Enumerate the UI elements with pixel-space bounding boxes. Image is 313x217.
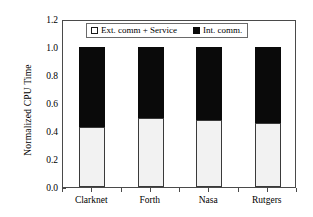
bar-segment-int-comm (196, 47, 222, 120)
filled-square-swatch-icon (193, 27, 200, 34)
chart-legend: Ext. comm + Service Int. comm. (86, 23, 248, 38)
legend-label-int-comm: Int. comm. (203, 26, 242, 35)
bar-rutgers (255, 47, 281, 187)
y-tick-label: 0.8 (24, 71, 58, 81)
y-tick-label: 0.4 (24, 127, 58, 137)
x-tick-mark (150, 188, 151, 192)
x-tick-mark (121, 188, 122, 192)
bar-clarknet (79, 47, 105, 187)
y-tick-label: 0.0 (24, 183, 58, 193)
bar-nasa (196, 47, 222, 187)
x-tick-label-rutgers: Rutgers (252, 195, 282, 205)
y-tick-label: 0.6 (24, 99, 58, 109)
x-tick-mark (296, 188, 297, 192)
x-tick-mark (238, 188, 239, 192)
bar-segment-ext-comm-service (196, 120, 222, 187)
bar-segment-ext-comm-service (255, 123, 281, 187)
y-tick-label: 1.2 (24, 15, 58, 25)
bar-forth (138, 47, 164, 187)
legend-item-ext-comm-service: Ext. comm + Service (91, 26, 177, 35)
y-tick-label: 0.2 (24, 155, 58, 165)
bar-segment-int-comm (79, 47, 105, 127)
bar-segment-ext-comm-service (79, 127, 105, 187)
x-tick-mark (62, 188, 63, 192)
bar-segment-int-comm (138, 47, 164, 118)
open-square-swatch-icon (91, 27, 98, 34)
cpu-time-stacked-bar-chart: Normalized CPU Time 0.00.20.40.60.81.01.… (0, 0, 313, 217)
y-tick-label: 1.0 (24, 43, 58, 53)
bar-segment-int-comm (255, 47, 281, 123)
x-tick-mark (91, 188, 92, 192)
x-tick-mark (267, 188, 268, 192)
x-tick-label-clarknet: Clarknet (75, 195, 108, 205)
bar-segment-ext-comm-service (138, 118, 164, 187)
x-tick-mark (179, 188, 180, 192)
x-tick-mark (208, 188, 209, 192)
legend-item-int-comm: Int. comm. (193, 26, 242, 35)
plot-area (62, 20, 296, 188)
legend-label-ext-comm-service: Ext. comm + Service (101, 26, 177, 35)
x-tick-label-nasa: Nasa (199, 195, 218, 205)
x-tick-label-forth: Forth (139, 195, 160, 205)
